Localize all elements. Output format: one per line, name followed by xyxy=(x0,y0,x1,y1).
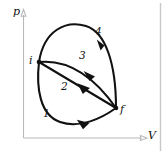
path-label-4: 4 xyxy=(95,26,102,37)
p-axis-label: p xyxy=(13,6,20,17)
path-2-curve xyxy=(39,62,116,108)
state-point-i-marker xyxy=(37,60,42,65)
path-label-3: 3 xyxy=(79,50,86,61)
state-label-f: f xyxy=(120,104,124,115)
state-point-f-marker xyxy=(114,106,119,111)
v-axis-label: V xyxy=(148,130,156,141)
diagram-canvas xyxy=(0,0,167,154)
state-label-i: i xyxy=(29,55,33,66)
path-label-1: 1 xyxy=(43,108,50,119)
path-label-2: 2 xyxy=(61,81,68,92)
path-4-curve xyxy=(39,24,116,108)
pv-diagram-figure: p V i f 1 2 3 4 xyxy=(0,0,167,154)
